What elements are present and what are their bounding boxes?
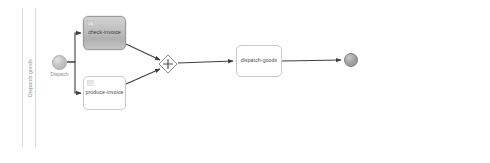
flow-dispatch-end[interactable] [282,60,341,61]
task-dispatch-goods[interactable]: dispatch-goods [236,45,282,77]
task-produce-invoice[interactable]: produce-invoice [83,76,126,110]
flow-check-join[interactable] [126,44,160,60]
flow-start-check[interactable] [67,33,81,62]
task-check-invoice[interactable]: check-invoice [83,16,126,50]
flow-join-dispatch[interactable] [178,61,233,63]
end-event[interactable] [344,53,358,67]
user-task-icon [87,80,94,86]
flow-start-produce[interactable] [67,62,81,93]
user-task-icon [87,20,94,26]
sequence-flow-layer [0,0,490,163]
start-event-label: Dispatch [40,72,79,77]
bpmn-diagram-canvas: Dispatch goods Dispatch [0,0,490,163]
task-dispatch-goods-label: dispatch-goods [237,58,281,64]
flow-produce-join[interactable] [126,69,160,84]
task-produce-invoice-label: produce-invoice [84,90,125,96]
join-gateway[interactable] [159,55,177,73]
start-event[interactable] [52,55,67,70]
task-check-invoice-label: check-invoice [84,30,125,36]
